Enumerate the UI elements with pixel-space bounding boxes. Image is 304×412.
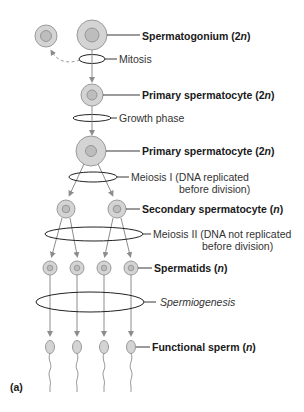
growth-phase-label: Growth phase	[119, 112, 184, 124]
spermatogonium-cell	[77, 20, 107, 50]
arrow-to-secondary-right	[98, 164, 112, 194]
spermatid-cell-2	[70, 261, 84, 275]
stage-name: Spermatogonium	[142, 30, 228, 42]
spermatids-label: Spermatids (n)	[154, 262, 228, 274]
primary-spermatocyte-cell	[81, 84, 103, 106]
secondary-spermatocyte-label: Secondary spermatocyte (n)	[142, 203, 283, 215]
grown-primary-spermatocyte-cell	[76, 136, 106, 166]
meiosis2-label-line2: before division)	[202, 240, 273, 252]
arrow-to-spermatid-1	[52, 218, 62, 255]
spermiogenesis-label: Spermiogenesis	[160, 296, 235, 308]
stage-name: Primary spermatocyte	[142, 145, 252, 157]
sperm-cell-4	[127, 341, 136, 393]
meiosis2-label: Meiosis II (DNA not replicated	[153, 228, 291, 240]
sperm-cell-3	[100, 341, 109, 393]
arrow-to-spermatid-3	[105, 218, 113, 255]
secondary-spermatocyte-cell-right	[108, 200, 126, 218]
paren: )	[271, 145, 275, 157]
functional-sperm-label: Functional sperm (n)	[152, 341, 256, 353]
paren: )	[280, 203, 284, 215]
process-name: Meiosis II (DNA not replicated	[153, 228, 291, 240]
stage-name: Functional sperm	[152, 341, 240, 353]
meiosis1-label: Meiosis I (DNA replicated	[131, 171, 249, 183]
arrow-to-spermatid-4	[121, 218, 130, 255]
process-note: before division)	[179, 183, 250, 195]
paren: )	[247, 30, 251, 42]
process-name: Spermiogenesis	[160, 296, 235, 308]
mitosis-label: Mitosis	[119, 53, 152, 65]
paren: )	[252, 341, 256, 353]
spermiogenesis-ellipse	[36, 292, 144, 312]
stage-name: Primary spermatocyte	[142, 89, 252, 101]
sperm-cell-2	[73, 341, 82, 393]
meiosis2-ellipse	[45, 227, 143, 241]
stage-name: Secondary spermatocyte	[142, 203, 267, 215]
process-name: Mitosis	[119, 53, 152, 65]
meiosis1-label-line2: before division)	[179, 183, 250, 195]
spermatid-cell-3	[97, 261, 111, 275]
process-note: before division)	[202, 240, 273, 252]
spermatogonium-label: Spermatogonium (2n)	[142, 30, 251, 42]
primary-spermatocyte-label: Primary spermatocyte (2n)	[142, 89, 275, 101]
panel-label: (a)	[10, 381, 23, 393]
daughter-spermatogonium-cell	[35, 25, 57, 47]
stage-name: Spermatids	[154, 262, 211, 274]
panel-letter: (a)	[10, 381, 23, 393]
arrow-to-spermatid-2	[70, 218, 77, 255]
paren: )	[271, 89, 275, 101]
paren: )	[224, 262, 228, 274]
secondary-spermatocyte-cell-left	[57, 200, 75, 218]
process-name: Growth phase	[119, 112, 184, 124]
spermatid-cell-4	[124, 261, 138, 275]
grown-primary-spermatocyte-label: Primary spermatocyte (2n)	[142, 145, 275, 157]
spermatid-cell-1	[43, 261, 57, 275]
process-name: Meiosis I (DNA replicated	[131, 171, 249, 183]
meiosis1-ellipse	[69, 172, 117, 182]
self-renewal-dashed-arrow	[52, 52, 80, 62]
sperm-cell-1	[46, 341, 55, 393]
